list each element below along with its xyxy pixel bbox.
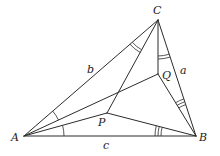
angle-mark-B — [179, 105, 186, 108]
angle-mark-B — [177, 102, 185, 106]
angle-mark-A — [63, 125, 64, 136]
side-label-c: c — [103, 139, 109, 152]
angle-mark-C — [158, 57, 170, 59]
vertex-label-A: A — [10, 131, 19, 144]
angle-mark-B — [158, 126, 159, 136]
angle-marks — [53, 42, 186, 136]
vertex-label-C: C — [153, 4, 162, 17]
side-label-b: b — [87, 63, 94, 76]
angle-mark-B — [155, 126, 156, 136]
geometry-figure: ABCPQabc — [0, 0, 220, 156]
vertex-label-Q: Q — [162, 69, 171, 82]
angle-mark-A — [53, 111, 59, 120]
triangle-diagram: ABCPQabc — [0, 0, 220, 156]
segment-CA — [24, 20, 158, 136]
angle-mark-C — [158, 54, 169, 56]
side-label-a: a — [180, 64, 187, 77]
angle-mark-C — [132, 42, 141, 50]
vertex-label-P: P — [97, 116, 106, 129]
angle-mark-B — [161, 127, 162, 136]
vertex-label-B: B — [198, 131, 207, 144]
segment-AQ — [24, 74, 158, 136]
labels: ABCPQabc — [10, 4, 207, 152]
segment-PC — [107, 20, 158, 113]
segment-PB — [107, 113, 196, 136]
